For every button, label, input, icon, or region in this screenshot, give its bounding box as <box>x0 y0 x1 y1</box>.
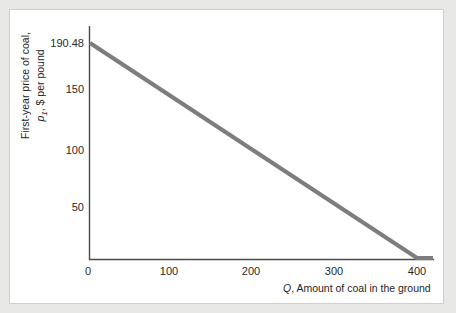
x-axis-title-symbol: Q <box>283 282 291 294</box>
price-line-series <box>90 43 433 258</box>
x-tick-label-0: 0 <box>85 265 91 277</box>
x-tick-label-300: 300 <box>325 265 343 277</box>
x-axis-title: Q, Amount of coal in the ground <box>283 282 431 294</box>
x-tick-label-400: 400 <box>408 265 426 277</box>
y-tick-label-50: 50 <box>10 201 84 213</box>
y-axis-title-units: , $ per pound <box>34 49 46 111</box>
x-tick-label-100: 100 <box>160 265 178 277</box>
x-tick-label-200: 200 <box>242 265 260 277</box>
y-tick-label-100: 100 <box>10 144 84 156</box>
y-axis-title-subscript: 1 <box>40 111 49 115</box>
y-tick-label-150: 150 <box>10 83 84 95</box>
y-axis-title-symbol: p <box>34 116 46 122</box>
y-tick-label-190: 190.48 <box>10 37 84 49</box>
chart-figure: First-year price of coal, p1, $ per poun… <box>0 0 456 313</box>
x-axis-title-text: , Amount of coal in the ground <box>291 282 431 294</box>
